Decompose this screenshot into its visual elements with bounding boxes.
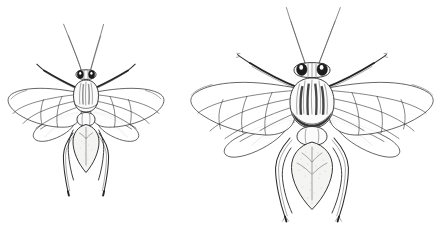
head: [76, 70, 96, 80]
thorax: [74, 80, 99, 112]
scutellum: [77, 113, 95, 127]
thorax: [290, 78, 334, 128]
figure-canvas: [0, 0, 436, 242]
head: [294, 63, 330, 78]
insect-figure-svg: [0, 0, 436, 242]
